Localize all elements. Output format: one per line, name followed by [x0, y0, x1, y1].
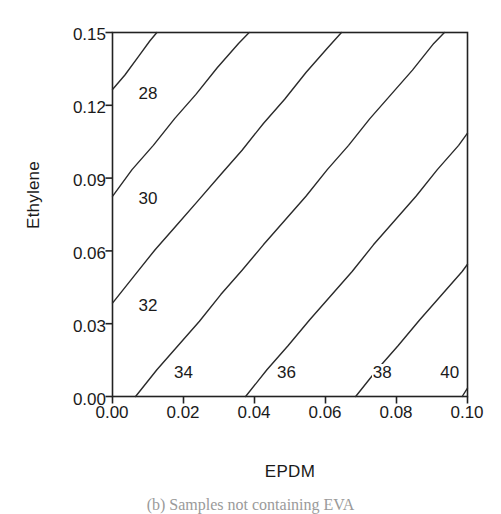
- contour-label-28: 28: [137, 85, 158, 102]
- contour-label-34: 34: [173, 364, 194, 381]
- contour-label-36: 36: [276, 364, 297, 381]
- contour-label-40: 40: [439, 364, 460, 381]
- contour-label-32: 32: [137, 297, 158, 314]
- contour-label-30: 30: [137, 190, 158, 207]
- x-axis-title: EPDM: [112, 462, 468, 482]
- contour-label-38: 38: [372, 364, 393, 381]
- figure-caption: (b) Samples not containing EVA: [0, 496, 501, 514]
